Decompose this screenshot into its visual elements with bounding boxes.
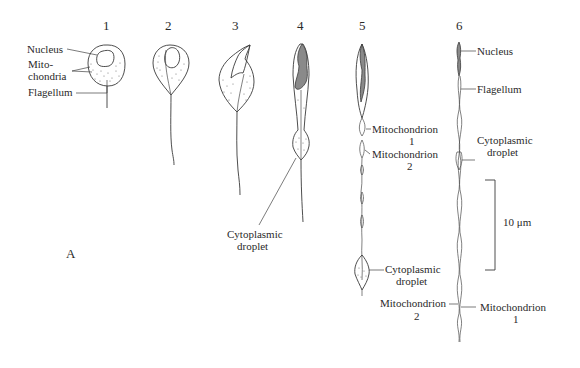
label-mitochondria-line1: Mito-: [28, 58, 53, 70]
label-mitochondria-line2: chondria: [28, 70, 67, 82]
panel-label: A: [66, 246, 76, 261]
label-droplet-stage4-line1: Cytoplasmic: [227, 228, 283, 240]
label-mitochondrion2-bottom: Mitochondrion: [380, 297, 446, 309]
scale-bar: [485, 180, 495, 270]
label-droplet-stage5-line1: Cytoplasmic: [385, 263, 441, 275]
label-mitochondrion2-stage5-num: 2: [407, 160, 413, 172]
stage-4-cell: [293, 44, 309, 222]
stage-3-dots: [222, 75, 250, 100]
spermiogenesis-diagram: 1 2 3 4 5 6 Nucleus Mito- chondria Flage…: [0, 0, 580, 368]
stage-number-3: 3: [232, 18, 239, 33]
leader-droplet-stage4: [259, 158, 296, 225]
label-nucleus-stage1: Nucleus: [27, 43, 63, 55]
label-nucleus-stage6: Nucleus: [477, 45, 513, 57]
stage-number-1: 1: [103, 18, 110, 33]
mitochondria-dots: [90, 62, 120, 81]
label-flagellum-stage1: Flagellum: [28, 86, 73, 98]
stage-6-cell: [456, 42, 462, 342]
leader-mito-1a: [72, 67, 90, 71]
stage-2-cell: [153, 45, 189, 165]
stage-number-6: 6: [456, 18, 463, 33]
stage-number-5: 5: [359, 18, 366, 33]
label-mitochondrion1-stage5-num: 1: [409, 135, 415, 147]
label-mitochondrion2-bottom-num: 2: [414, 310, 420, 322]
label-mitochondrion1-stage5: Mitochondrion: [372, 123, 438, 135]
stage-number-2: 2: [165, 18, 172, 33]
label-mitochondrion1-stage6-num: 1: [513, 313, 519, 325]
label-mitochondrion2-stage5: Mitochondrion: [372, 148, 438, 160]
label-droplet-stage6-line2: droplet: [487, 146, 518, 158]
label-droplet-stage5-line2: droplet: [396, 275, 427, 287]
label-droplet-stage6-line1: Cytoplasmic: [477, 134, 533, 146]
label-flagellum-stage6: Flagellum: [477, 83, 522, 95]
label-mitochondrion1-stage6: Mitochondrion: [480, 301, 546, 313]
scale-bar-label: 10 μm: [503, 216, 532, 228]
stage-3-cell: [219, 45, 254, 195]
label-droplet-stage4-line2: droplet: [237, 240, 268, 252]
stage-5-cell: [355, 44, 369, 296]
stage-number-4: 4: [297, 18, 304, 33]
leader-mito2-stage5: [365, 150, 370, 154]
